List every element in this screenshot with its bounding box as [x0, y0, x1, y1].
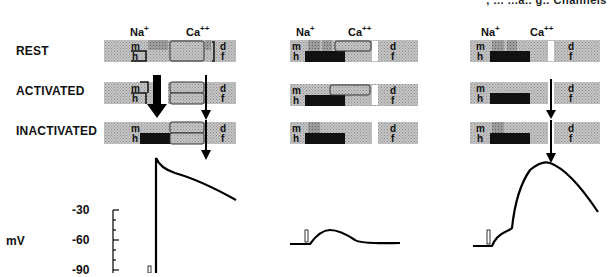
- trace-normal-ap: [156, 158, 236, 273]
- col3-activated: [470, 82, 600, 104]
- svg-text:h: h: [132, 93, 138, 104]
- svg-text:h: h: [132, 51, 138, 62]
- svg-text:h: h: [132, 133, 138, 144]
- col2-activated: [290, 84, 418, 106]
- tick-minus-90: -90: [72, 263, 89, 277]
- col1-rest: [104, 40, 236, 62]
- axis-unit-label: mV: [6, 234, 25, 248]
- col2-inactivated: [290, 122, 418, 144]
- tick-minus-30: -30: [72, 203, 89, 217]
- svg-text:h: h: [293, 133, 299, 144]
- mv-axis: [113, 210, 119, 273]
- col3-rest: [470, 40, 600, 62]
- col2-rest: [290, 40, 418, 62]
- svg-text:h: h: [477, 133, 483, 144]
- trace-ca-slow: [473, 162, 598, 246]
- svg-text:h: h: [293, 95, 299, 106]
- col3-inactivated: [470, 122, 600, 144]
- svg-text:h: h: [477, 93, 483, 104]
- tick-minus-60: -60: [72, 233, 89, 247]
- col1-activated: [104, 82, 236, 104]
- col1-inactivated: [104, 122, 236, 144]
- svg-text:h: h: [477, 51, 483, 62]
- svg-text:h: h: [293, 51, 299, 62]
